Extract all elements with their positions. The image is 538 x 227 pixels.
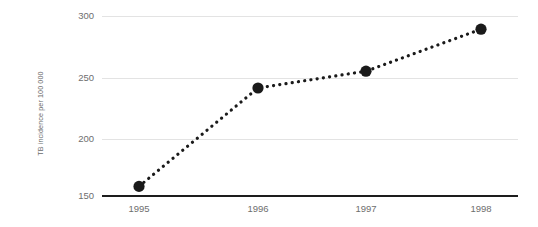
x-axis-tick-labels: 1995 1996 1997 1998 (0, 202, 538, 218)
x-tick-label-1998: 1998 (441, 202, 521, 216)
data-point-1997 (360, 66, 371, 77)
y-tick-label-250: 250 (50, 73, 94, 83)
y-axis-title: TB incidence per 100 000 (34, 0, 48, 227)
y-tick-label-200: 200 (50, 134, 94, 144)
data-point-1996 (252, 82, 263, 93)
data-point-1995 (133, 181, 144, 192)
x-tick-label-1996: 1996 (218, 202, 298, 216)
line-chart: TB incidence per 100 000 300 250 200 150… (0, 0, 538, 227)
data-point-1998 (475, 24, 486, 35)
y-tick-label-300: 300 (50, 11, 94, 21)
series-markers (133, 24, 486, 192)
series-line-tb-incidence (139, 29, 481, 186)
x-axis-line (102, 195, 518, 197)
series-plot (102, 16, 518, 196)
x-tick-label-1997: 1997 (326, 202, 406, 216)
y-tick-label-150: 150 (50, 191, 94, 201)
y-axis-tick-labels: 300 250 200 150 (50, 0, 94, 227)
plot-area (102, 16, 518, 196)
x-tick-label-1995: 1995 (99, 202, 179, 216)
